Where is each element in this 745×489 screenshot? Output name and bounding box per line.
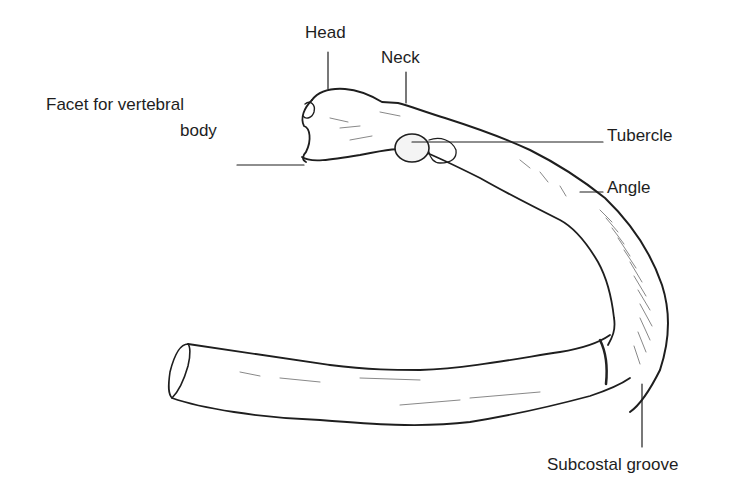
subcostal-groove-line (600, 340, 607, 384)
label-neck: Neck (381, 48, 420, 68)
label-angle: Angle (607, 178, 650, 198)
vertebral-facet (302, 100, 312, 162)
rib-shaft-bottom-edge (172, 378, 630, 425)
label-tubercle: Tubercle (607, 126, 673, 146)
label-facet-line2: body (180, 121, 217, 141)
rib-illustration (0, 0, 745, 489)
rib-shaft-top-edge (188, 335, 610, 370)
sternal-end (169, 344, 190, 398)
label-head: Head (305, 23, 346, 43)
label-subcostal-groove: Subcostal groove (547, 455, 678, 475)
tubercle-shape (395, 134, 429, 162)
rib-shaft-lower-edge (302, 149, 615, 345)
label-facet-line1: Facet for vertebral (46, 95, 184, 115)
